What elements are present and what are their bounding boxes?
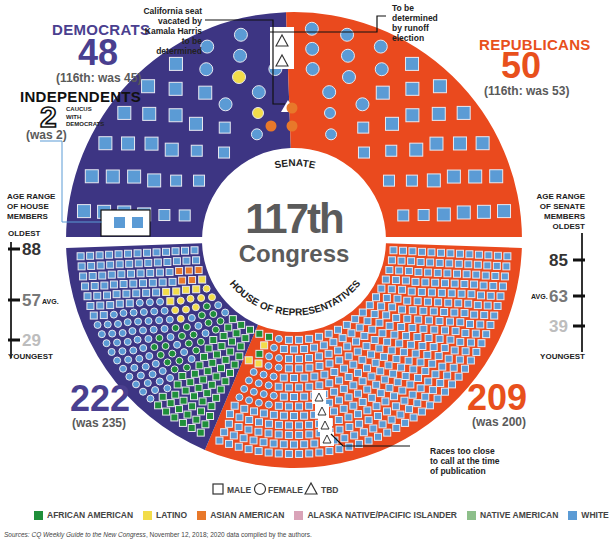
asian-american-senator xyxy=(287,121,298,132)
house-seat xyxy=(306,402,313,409)
senate-seat xyxy=(179,210,190,221)
senate-seat xyxy=(437,208,450,221)
house-seat xyxy=(208,403,215,410)
house-seat xyxy=(504,253,511,260)
house-seat xyxy=(143,289,150,296)
house-seat xyxy=(291,441,298,448)
house-seat xyxy=(343,321,350,328)
house-seat xyxy=(187,295,194,302)
house-seat xyxy=(398,323,405,330)
house-seat xyxy=(417,385,424,392)
senate-seat xyxy=(191,145,202,156)
senate-youngest-age: 39 xyxy=(549,317,568,337)
legend-native-american: NATIVE AMERICAN xyxy=(467,510,558,520)
senate-seat xyxy=(171,175,182,186)
house-seat xyxy=(250,368,257,375)
house-seat xyxy=(456,356,463,363)
house-seat xyxy=(430,308,437,315)
republicans-house-previous: (was 200) xyxy=(472,415,526,429)
house-seat xyxy=(467,339,474,346)
house-seat xyxy=(353,338,360,345)
house-seat xyxy=(432,371,439,378)
house-seat xyxy=(359,356,366,363)
house-seat xyxy=(473,271,480,278)
house-seat xyxy=(340,365,347,372)
house-seat xyxy=(196,362,203,369)
house-seat xyxy=(203,285,210,292)
senate-seat xyxy=(118,106,131,119)
house-seat xyxy=(445,299,452,306)
house-seat xyxy=(376,345,383,352)
house-seat xyxy=(398,364,405,371)
senate-seat xyxy=(386,145,397,156)
house-seat xyxy=(431,326,438,333)
senate-seat xyxy=(200,63,213,76)
house-seat xyxy=(412,350,419,357)
house-seat xyxy=(84,293,91,300)
house-seat xyxy=(365,417,372,424)
house-seat xyxy=(436,317,443,324)
house-seat xyxy=(225,420,232,427)
house-seat xyxy=(134,336,141,343)
house-seat xyxy=(394,295,401,302)
house-seat xyxy=(409,307,416,314)
house-seat xyxy=(88,262,95,269)
senate-seat xyxy=(77,205,90,218)
house-seat xyxy=(275,421,282,428)
house-seat xyxy=(503,263,510,270)
house-seat xyxy=(144,379,151,386)
house-seat xyxy=(485,252,492,259)
house-seat xyxy=(183,257,190,264)
house-seat xyxy=(265,333,272,340)
house-seat xyxy=(391,331,398,338)
legend-african-american: AFRICAN AMERICAN xyxy=(34,510,133,520)
house-seat xyxy=(405,357,412,364)
house-seat xyxy=(260,371,267,378)
house-seat xyxy=(110,281,117,288)
house-seat xyxy=(140,308,147,315)
senate-seat xyxy=(169,57,182,70)
house-seat xyxy=(110,311,117,318)
house-seat xyxy=(204,390,211,397)
house-seat xyxy=(280,346,287,353)
senate-seat xyxy=(234,28,247,41)
house-seat xyxy=(383,295,390,302)
house-seat xyxy=(345,394,352,401)
house-seat xyxy=(425,335,432,342)
house-seat xyxy=(183,364,190,371)
house-seat xyxy=(356,420,363,427)
house-seat xyxy=(266,353,273,360)
house-seat xyxy=(210,311,217,318)
house-seat xyxy=(164,385,171,392)
house-seat xyxy=(119,330,126,337)
house-seat xyxy=(493,262,500,269)
native-american-swatch xyxy=(467,511,476,520)
house-seat xyxy=(131,364,138,371)
house-seat xyxy=(379,421,386,428)
house-seat xyxy=(142,363,149,370)
house-seat xyxy=(384,429,391,436)
house-seat xyxy=(114,357,121,364)
house-seat xyxy=(373,403,380,410)
runoff-note: To be determined by runoff election xyxy=(392,3,438,43)
house-seat xyxy=(255,360,262,367)
house-seat xyxy=(255,448,262,455)
house-seat xyxy=(451,347,458,354)
house-seat xyxy=(386,384,393,391)
house-seat xyxy=(291,394,298,401)
senate-seat xyxy=(386,117,399,130)
center-subtitle: Congress xyxy=(239,240,350,267)
house-seat xyxy=(139,327,146,334)
house-seat xyxy=(195,322,202,329)
house-seat xyxy=(140,345,147,352)
house-seat xyxy=(182,247,189,254)
house-seat xyxy=(311,373,318,380)
house-seat xyxy=(477,292,484,299)
house-seat xyxy=(457,338,464,345)
senate-seat xyxy=(306,63,319,76)
senate-seat xyxy=(453,137,466,150)
house-seat xyxy=(396,340,403,347)
house-seat xyxy=(388,347,395,354)
house-seat xyxy=(430,344,437,351)
legend-female-label: FEMALE xyxy=(268,485,303,495)
